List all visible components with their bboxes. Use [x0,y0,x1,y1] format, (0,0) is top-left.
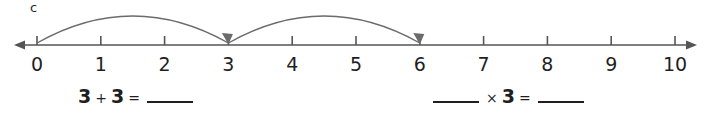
jump-3-to-6 [228,16,424,45]
jump-0-to-3 [37,16,233,45]
tick-label-3: 3 [213,53,243,75]
equation-number: 3 [111,84,124,108]
multiplication-equation: ×3= [430,84,587,110]
tick-label-2: 2 [150,53,180,75]
equation-operator: = [515,86,535,110]
tick-label-0: 0 [22,53,52,75]
tick-label-9: 9 [596,53,626,75]
equation-number: 3 [78,84,91,108]
tick-label-10: 10 [660,53,690,75]
tick-label-6: 6 [405,53,435,75]
answer-blank[interactable] [147,87,193,103]
worksheet-item: c 012345678910 3+3= ×3= [0,0,705,115]
tick-label-8: 8 [532,53,562,75]
number-line-jump-arcs [37,16,424,45]
equation-operator: × [482,86,502,110]
number-line-ticks [37,36,675,45]
equation-operator: + [91,86,111,110]
tick-label-7: 7 [469,53,499,75]
equation-operator: = [124,86,144,110]
equation-number: 3 [502,84,515,108]
tick-label-4: 4 [277,53,307,75]
tick-label-1: 1 [86,53,116,75]
answer-blank[interactable] [433,87,479,103]
addition-equation: 3+3= [78,84,196,110]
answer-blank[interactable] [538,87,584,103]
tick-label-5: 5 [341,53,371,75]
